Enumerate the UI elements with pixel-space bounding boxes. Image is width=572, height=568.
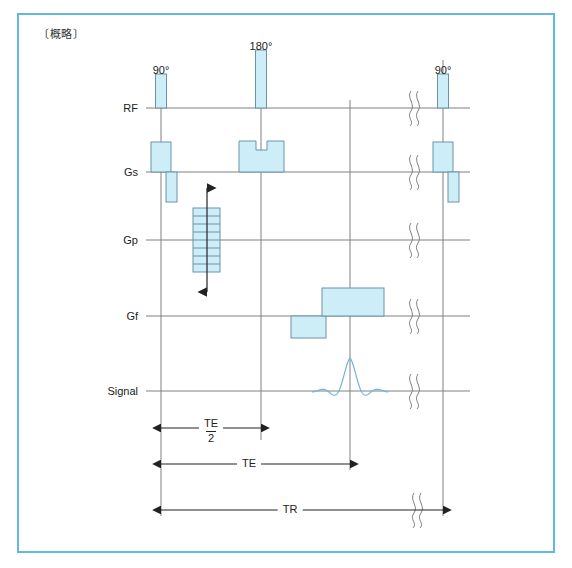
row-label-gs: Gs: [78, 166, 138, 178]
row-label-gp: Gp: [78, 234, 138, 246]
timing-te-label: TE: [237, 457, 261, 469]
timing-te-half-numerator: TE: [204, 418, 218, 430]
gs-slice-select-2: [433, 142, 453, 172]
gs-slice-select-1: [151, 142, 171, 172]
rf-pulse-90-second: [438, 74, 449, 108]
gradient-shapes-group: [151, 50, 459, 395]
rf-pulse-90-first-label: 90°: [153, 64, 170, 76]
row-label-gf: Gf: [78, 310, 138, 322]
pulse-sequence-diagram: [0, 0, 572, 568]
timing-tr-label: TR: [278, 503, 303, 515]
timing-te-half-denominator: 2: [204, 433, 218, 445]
rf-pulse-180: [256, 50, 267, 108]
gf-readout: [322, 288, 384, 316]
gs-rephase-1: [166, 172, 177, 202]
rf-pulse-90-second-label: 90°: [435, 64, 452, 76]
guide-lines-group: [161, 50, 443, 516]
rf-pulse-180-label: 180°: [250, 40, 273, 52]
gf-dephase: [291, 316, 326, 338]
timing-te-half-label: TE2: [199, 418, 223, 444]
row-label-rf: RF: [78, 102, 138, 114]
row-label-signal: Signal: [78, 385, 138, 397]
gs-rephase-2: [448, 172, 459, 202]
break-marks-group: [409, 91, 422, 528]
rf-pulse-90-first: [156, 74, 167, 108]
